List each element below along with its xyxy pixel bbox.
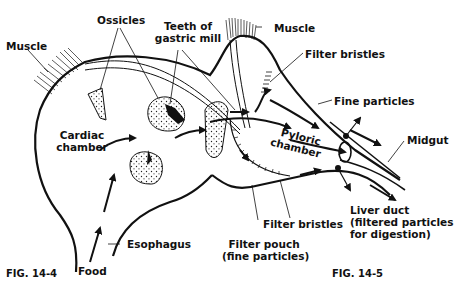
label-muscle-right: Muscle: [274, 22, 315, 34]
label-esophagus: Esophagus: [127, 238, 191, 250]
label-cardiac-chamber: Cardiac chamber: [52, 129, 112, 153]
label-filter-pouch-line1: Filter pouch: [222, 238, 306, 250]
label-teeth: Teeth of gastric mill: [150, 20, 226, 44]
label-cardiac-line2: chamber: [52, 141, 112, 153]
ossicle-lower: [130, 152, 162, 184]
label-liver-line1: Liver duct: [350, 204, 453, 216]
label-fine-particles: Fine particles: [334, 95, 415, 107]
label-cardiac-line1: Cardiac: [52, 129, 112, 141]
label-liver-line2: (filtered particles: [350, 216, 453, 228]
label-teeth-line2: gastric mill: [150, 32, 226, 44]
figure-label-right: FIG. 14-5: [332, 268, 383, 280]
pyloric-ossicle: [205, 102, 228, 158]
label-filter-pouch-line2: (fine particles): [222, 250, 306, 262]
stomach-diagram: Muscle Ossicles Teeth of gastric mill Mu…: [0, 0, 457, 285]
label-food: Food: [78, 265, 107, 277]
label-filter-bristles-bottom: Filter bristles: [263, 218, 343, 230]
figure-label-left: FIG. 14-4: [6, 268, 57, 280]
label-filter-bristles-top: Filter bristles: [305, 48, 385, 60]
label-teeth-line1: Teeth of: [150, 20, 226, 32]
label-muscle-left: Muscle: [6, 40, 47, 52]
label-filter-pouch: Filter pouch (fine particles): [222, 238, 306, 262]
label-liver-line3: for digestion): [350, 228, 453, 240]
ossicle-small: [88, 88, 106, 120]
label-ossicles: Ossicles: [97, 14, 145, 26]
label-liver-duct: Liver duct (filtered particles for diges…: [350, 204, 453, 240]
muscle-left-bundle: [34, 48, 82, 94]
label-midgut: Midgut: [407, 134, 449, 146]
